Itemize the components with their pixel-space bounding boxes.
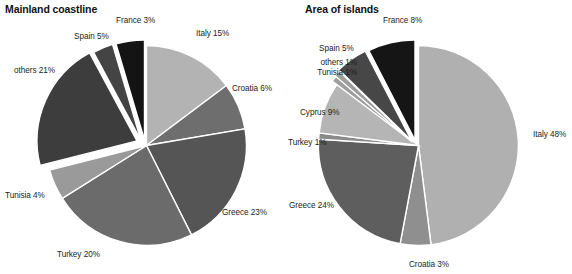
label-islands-others: others 1% xyxy=(299,58,357,68)
pie-slice-greece[interactable] xyxy=(318,139,418,244)
label-islands-spain: Spain 5% xyxy=(319,44,354,54)
label-islands-turkey: Turkey 1% xyxy=(288,138,326,148)
label-islands-france: France 8% xyxy=(383,16,422,26)
pie-slice-italy[interactable] xyxy=(419,46,519,245)
figure-canvas: Mainland coastline Area of islands xyxy=(0,0,572,274)
label-islands-italy: Italy 48% xyxy=(533,130,566,140)
label-islands-greece: Greece 24% xyxy=(289,201,334,211)
label-islands-tunisia: Tunisia 1% xyxy=(299,68,357,78)
label-islands-croatia: Croatia 3% xyxy=(409,260,449,270)
pie-chart-area-of-islands xyxy=(0,0,572,274)
label-islands-cyprus: Cyprus 9% xyxy=(300,108,340,118)
